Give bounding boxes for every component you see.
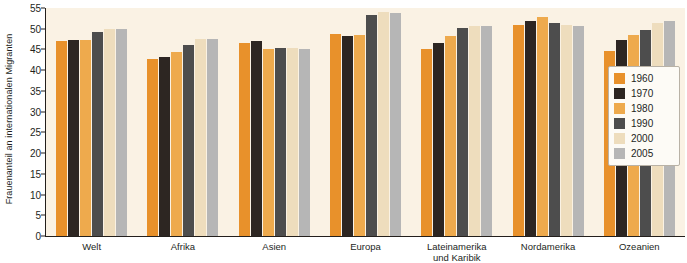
bar	[56, 41, 67, 236]
bar-group	[137, 8, 228, 236]
bar	[80, 40, 91, 236]
y-axis-tick-label: 45	[30, 44, 41, 55]
bar	[207, 39, 218, 236]
bar	[366, 15, 377, 236]
bar	[390, 13, 401, 236]
bar-group	[502, 8, 593, 236]
legend-color-swatch	[614, 133, 625, 144]
bar	[342, 36, 353, 236]
bar	[183, 45, 194, 236]
bar	[239, 43, 250, 236]
bar-chart-figure: Frauenanteil an internationalen Migrante…	[0, 0, 687, 263]
legend-item-label: 1960	[631, 73, 653, 84]
bar	[147, 59, 158, 236]
legend-color-swatch	[614, 148, 625, 159]
bar	[481, 26, 492, 236]
y-axis-tick-label: 55	[30, 3, 41, 14]
x-axis-category-label: Afrika	[137, 239, 228, 263]
legend-item-label: 1970	[631, 88, 653, 99]
bar	[275, 48, 286, 236]
y-axis-tick-mark	[41, 236, 45, 237]
legend-color-swatch	[614, 73, 625, 84]
y-axis-tick-mark	[41, 28, 45, 29]
y-axis-title-text: Frauenanteil an internationalen Migrante…	[4, 34, 14, 205]
y-axis-tick-label: 15	[30, 168, 41, 179]
legend: 196019701980199020002005	[608, 66, 680, 166]
y-axis-tick-label: 30	[30, 106, 41, 117]
x-axis-line	[45, 236, 685, 237]
x-axis-category-label: Welt	[46, 239, 137, 263]
bar-group	[229, 8, 320, 236]
y-axis-title: Frauenanteil an internationalen Migrante…	[0, 0, 18, 238]
y-axis-tick-mark	[41, 132, 45, 133]
legend-color-swatch	[614, 103, 625, 114]
y-axis-tick-mark	[41, 90, 45, 91]
y-axis-tick-mark	[41, 49, 45, 50]
x-axis-category-label: Ozeanien	[594, 239, 685, 263]
bar-group	[46, 8, 137, 236]
y-axis-tick-mark	[41, 215, 45, 216]
y-axis-tick-label: 35	[30, 85, 41, 96]
bar	[525, 21, 536, 236]
y-axis-tick-mark	[41, 8, 45, 9]
bar	[251, 41, 262, 236]
legend-item-label: 2005	[631, 148, 653, 159]
bar	[159, 57, 170, 236]
bar	[195, 39, 206, 236]
legend-item[interactable]: 1960	[614, 71, 675, 86]
bar	[561, 25, 572, 236]
bar	[354, 35, 365, 236]
x-axis-category-label: Lateinamerikaund Karibik	[411, 239, 502, 263]
x-axis-category-labels: WeltAfrikaAsienEuropaLateinamerikaund Ka…	[46, 239, 685, 263]
legend-item[interactable]: 1980	[614, 101, 675, 116]
legend-item[interactable]: 1990	[614, 116, 675, 131]
legend-color-swatch	[614, 118, 625, 129]
bar	[549, 23, 560, 236]
y-axis-tick-mark	[41, 111, 45, 112]
legend-item[interactable]: 2005	[614, 146, 675, 161]
bar	[287, 48, 298, 236]
bar	[263, 49, 274, 236]
x-axis-category-label: Nordamerika	[502, 239, 593, 263]
bar	[299, 49, 310, 236]
bar	[513, 25, 524, 236]
bar	[378, 12, 389, 236]
y-axis-tick-mark	[41, 153, 45, 154]
y-axis-tick-label: 10	[30, 189, 41, 200]
x-axis-category-label: Europa	[320, 239, 411, 263]
bar	[457, 28, 468, 236]
bar	[573, 26, 584, 236]
y-axis-tick-mark	[41, 70, 45, 71]
legend-item-label: 1980	[631, 103, 653, 114]
bar	[330, 34, 341, 236]
bar	[68, 40, 79, 236]
y-axis-tick-label: 20	[30, 148, 41, 159]
y-axis-tick-labels: 0510152025303540455055	[18, 8, 44, 236]
legend-color-swatch	[614, 88, 625, 99]
bar	[171, 52, 182, 236]
bar	[92, 32, 103, 236]
bar	[537, 17, 548, 236]
legend-item-label: 1990	[631, 118, 653, 129]
bar	[469, 26, 480, 236]
bar	[104, 29, 115, 236]
legend-item-label: 2000	[631, 133, 653, 144]
y-axis-tick-mark	[41, 173, 45, 174]
legend-item[interactable]: 2000	[614, 131, 675, 146]
y-axis-tick-label: 25	[30, 127, 41, 138]
bar	[433, 43, 444, 236]
plot-area	[46, 8, 685, 236]
y-axis-tick-mark	[41, 194, 45, 195]
bar-group	[320, 8, 411, 236]
y-axis-tick-label: 50	[30, 23, 41, 34]
x-axis-category-label: Asien	[229, 239, 320, 263]
y-axis-tick-label: 40	[30, 65, 41, 76]
bar	[445, 36, 456, 236]
bar	[421, 49, 432, 236]
bar-group	[411, 8, 502, 236]
legend-item[interactable]: 1970	[614, 86, 675, 101]
bar	[116, 29, 127, 236]
